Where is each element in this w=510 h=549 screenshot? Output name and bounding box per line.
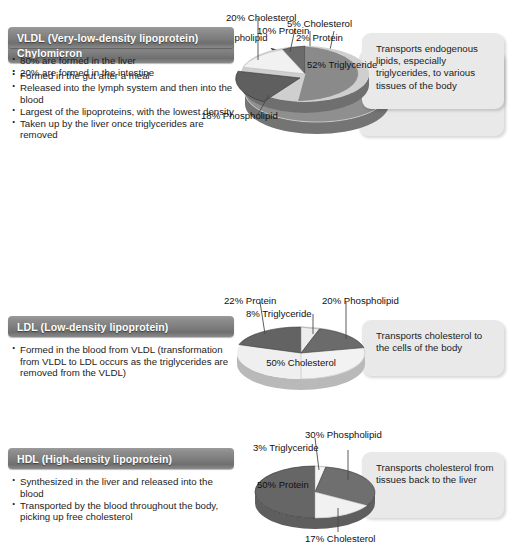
vldl-callout-phospholipid: 18% Phospholipid xyxy=(201,110,278,121)
ldl-header-label: LDL (Low-density lipoprotein) xyxy=(17,321,168,333)
vldl-text-block: VLDL (Very-low-density lipoprotein) 80% … xyxy=(8,27,234,79)
ldl-callout-triglyceride: 8% Triglyceride xyxy=(246,308,312,319)
ldl-callout-protein: 22% Protein xyxy=(224,295,276,306)
vldl-callout-cholesterol: 20% Cholesterol xyxy=(226,12,296,23)
ldl-slice-label-cholesterol: 50% Cholesterol xyxy=(249,358,353,369)
vldl-slice-label-triglyceride: 52% Triglyceride xyxy=(307,60,369,71)
hdl-slice-label-protein: 50% Protein xyxy=(257,480,305,491)
ldl-header-bar: LDL (Low-density lipoprotein) xyxy=(8,316,234,337)
ldl-text-block: LDL (Low-density lipoprotein) Formed in … xyxy=(8,316,234,379)
section-vldl: VLDL (Very-low-density lipoprotein) 80% … xyxy=(0,0,510,140)
ldl-callout-phospholipid: 20% Phospholipid xyxy=(322,295,399,306)
list-item: 20% are formed in the intestine xyxy=(12,67,234,79)
hdl-description-text: Transports cholesterol from tissues back… xyxy=(376,462,494,485)
ldl-bullet-list: Formed in the blood from VLDL (transform… xyxy=(8,344,234,379)
list-item: Synthesized in the liver and released in… xyxy=(12,476,234,499)
hdl-callout-phospholipid: 30% Phospholipid xyxy=(305,429,382,440)
vldl-pie-chart: 52% Triglyceride xyxy=(238,32,372,120)
vldl-callout-protein: 10% Protein xyxy=(257,25,309,36)
section-hdl: HDL (High-density lipoprotein) Synthesiz… xyxy=(0,420,510,549)
hdl-bullet-list: Synthesized in the liver and released in… xyxy=(8,476,234,523)
ldl-description-text: Transports cholesterol to the cells of t… xyxy=(376,330,482,353)
hdl-pie-chart: 50% Protein xyxy=(253,452,377,534)
hdl-header-label: HDL (High-density lipoprotein) xyxy=(17,453,172,465)
ldl-pie-chart: 50% Cholesterol xyxy=(235,316,367,394)
vldl-header-bar: VLDL (Very-low-density lipoprotein) xyxy=(8,27,234,48)
hdl-callout-triglyceride: 3% Triglyceride xyxy=(253,442,319,453)
list-item: Formed in the blood from VLDL (transform… xyxy=(12,344,234,379)
ldl-description-panel: Transports cholesterol to the cells of t… xyxy=(362,320,504,376)
section-ldl: LDL (Low-density lipoprotein) Formed in … xyxy=(0,288,510,418)
vldl-description-text: Transports endogenous lipids, especially… xyxy=(376,43,478,91)
hdl-callout-cholesterol: 17% Cholesterol xyxy=(305,533,375,544)
vldl-description-panel: Transports endogenous lipids, especially… xyxy=(362,33,504,109)
vldl-header-label: VLDL (Very-low-density lipoprotein) xyxy=(17,32,198,44)
list-item: 80% are formed in the liver xyxy=(12,55,234,67)
hdl-text-block: HDL (High-density lipoprotein) Synthesiz… xyxy=(8,448,234,523)
list-item: Transported by the blood throughout the … xyxy=(12,500,234,523)
vldl-bullet-list: 80% are formed in the liver 20% are form… xyxy=(8,55,234,79)
hdl-header-bar: HDL (High-density lipoprotein) xyxy=(8,448,234,469)
hdl-description-panel: Transports cholesterol from tissues back… xyxy=(362,452,504,518)
